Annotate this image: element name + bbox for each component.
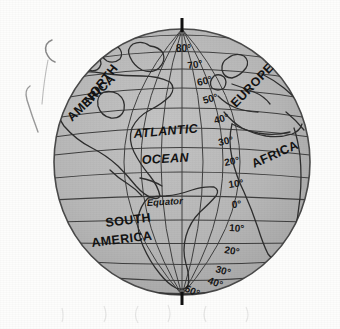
globe-figure: 80° 70° 60° 50° 40° 30° 20° 10° Equator … — [0, 0, 340, 329]
latitude-label-10n: 10° — [228, 177, 245, 190]
latitude-label-10s: 10° — [229, 222, 245, 234]
equator-label: Equator — [147, 195, 185, 208]
latitude-label-80: 80° — [176, 43, 191, 54]
latitude-label-70: 70° — [187, 58, 204, 71]
latitude-label-0: 0° — [231, 198, 241, 210]
latitude-label-20s: 20° — [224, 244, 241, 257]
place-label-ocean: OCEAN — [141, 151, 189, 167]
